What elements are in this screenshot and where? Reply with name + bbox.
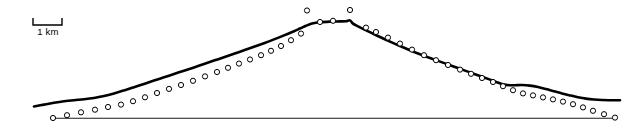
data-point-marker xyxy=(500,84,505,89)
data-point-marker xyxy=(317,19,322,24)
data-point-marker xyxy=(92,107,97,112)
data-point-marker xyxy=(457,67,462,72)
data-point-marker xyxy=(490,79,495,84)
data-point-marker xyxy=(520,91,525,96)
profile-plot-canvas xyxy=(0,0,636,128)
data-point-marker xyxy=(190,78,195,83)
data-point-marker xyxy=(247,57,252,62)
data-point-marker xyxy=(580,105,585,110)
data-point-marker xyxy=(421,53,426,58)
data-point-marker xyxy=(445,62,450,67)
data-point-marker xyxy=(550,97,555,102)
data-point-marker xyxy=(433,58,438,63)
data-point-marker xyxy=(397,41,402,46)
data-point-marker xyxy=(560,99,565,104)
data-point-marker xyxy=(347,7,352,12)
data-point-marker xyxy=(268,48,273,53)
data-point-marker xyxy=(118,102,123,107)
data-point-marker xyxy=(288,38,293,43)
data-point-marker xyxy=(373,29,378,34)
data-point-marker xyxy=(304,8,309,13)
data-point-marker xyxy=(78,110,83,115)
data-point-marker xyxy=(166,86,171,91)
data-point-marker xyxy=(50,115,55,120)
data-point-marker xyxy=(214,69,219,74)
data-point-marker xyxy=(468,71,473,76)
profile-figure: 1 km xyxy=(0,0,636,128)
data-point-marker xyxy=(510,88,515,93)
data-point-marker xyxy=(530,93,535,98)
data-point-marker xyxy=(479,75,484,80)
data-point-marker xyxy=(409,47,414,52)
data-point-marker xyxy=(236,61,241,66)
data-point-marker xyxy=(64,113,69,118)
data-point-marker xyxy=(363,25,368,30)
data-point-marker xyxy=(570,102,575,107)
data-point-marker xyxy=(258,53,263,58)
data-point-marker xyxy=(178,82,183,87)
data-point-marker xyxy=(225,65,230,70)
data-point-marker xyxy=(612,115,617,120)
data-point-marker xyxy=(130,99,135,104)
data-point-marker xyxy=(330,18,335,23)
data-point-marker xyxy=(590,108,595,113)
data-point-marker xyxy=(142,95,147,100)
data-point-marker xyxy=(601,112,606,117)
data-point-marker xyxy=(154,90,159,95)
data-point-marker xyxy=(298,31,303,36)
data-point-marker xyxy=(278,43,283,48)
data-point-marker xyxy=(385,35,390,40)
data-point-marker xyxy=(540,95,545,100)
scale-bar-label: 1 km xyxy=(24,26,72,37)
data-point-marker xyxy=(105,104,110,109)
data-point-marker xyxy=(202,74,207,79)
